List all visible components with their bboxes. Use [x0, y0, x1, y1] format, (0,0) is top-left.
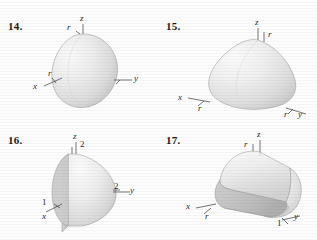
figure-14-label-r-left: r: [48, 69, 52, 78]
figure-17-value-y: 1: [277, 219, 282, 228]
figure-17-label-z: z: [257, 130, 261, 139]
figure-17-label-r-left: r: [205, 212, 209, 221]
figure-panel-15: 15.: [158, 0, 317, 120]
figure-15-drawing: [158, 0, 317, 120]
figure-16-drawing: [0, 120, 158, 240]
figure-17-label-r-top: r: [244, 140, 248, 149]
figure-17-label-y: y: [294, 212, 298, 221]
figure-15-label-x: x: [178, 93, 182, 102]
figure-14-label-r-top: r: [67, 23, 71, 32]
figure-panel-16: 16.: [0, 120, 158, 240]
figure-15-label-r-bottom: r: [284, 110, 288, 119]
figure-16-label-x: x: [42, 212, 46, 221]
figure-16-label-z: z: [73, 132, 77, 141]
figure-16-value-x: 1: [42, 198, 47, 207]
figure-14-drawing: [0, 0, 158, 120]
figure-15-label-z: z: [255, 18, 259, 27]
figure-14-label-z: z: [80, 14, 84, 23]
figure-panel-14: 14.: [0, 0, 158, 120]
figure-16-label-y: y: [130, 186, 134, 195]
figure-15-label-r-left: r: [198, 104, 202, 113]
figure-17-label-x: x: [186, 202, 190, 211]
figure-16-value-z: 2: [80, 140, 85, 149]
figure-16-value-y: 2: [114, 182, 119, 191]
figure-15-label-y: y: [298, 110, 302, 119]
figure-15-label-r-right: r: [268, 30, 272, 39]
figure-14-label-y: y: [134, 74, 138, 83]
figure-14-label-x: x: [33, 82, 37, 91]
figure-page: 14.: [0, 0, 317, 240]
figure-17-drawing: [158, 120, 317, 240]
figure-panel-17: 17.: [158, 120, 317, 240]
